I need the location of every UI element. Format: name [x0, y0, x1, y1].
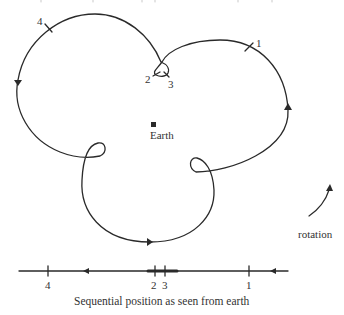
retrograde-motion-diagram [0, 0, 344, 315]
orbit-label-4: 4 [37, 16, 43, 27]
line-label-2: 2 [151, 280, 157, 291]
diagram-caption: Sequential position as seen from earth [74, 296, 249, 308]
arrow-left-down-icon [14, 80, 22, 86]
orbit-label-1: 1 [256, 38, 262, 49]
earth-marker-icon [151, 122, 156, 127]
line-label-3: 3 [162, 280, 168, 291]
rotation-label: rotation [298, 229, 332, 240]
line-arrow-right-end-icon [270, 268, 276, 274]
arrow-bottom-right-icon [147, 238, 153, 246]
line-label-4: 4 [45, 280, 51, 291]
orbit-label-3: 3 [168, 79, 174, 90]
line-arrow-left-icon [83, 268, 89, 274]
cropped-text-fragments [41, 0, 272, 2]
earth-label: Earth [150, 130, 174, 141]
orbit-label-2: 2 [145, 74, 151, 85]
rotation-arrowhead-icon [326, 184, 333, 191]
rotation-arrow-curve [309, 190, 329, 216]
arrow-right-up-icon [284, 103, 292, 110]
line-label-1: 1 [246, 280, 252, 291]
